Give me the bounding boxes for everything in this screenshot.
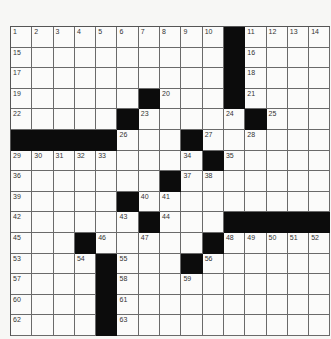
grid-cell[interactable]: 54 bbox=[75, 254, 96, 275]
grid-cell[interactable]: 8 bbox=[160, 27, 181, 48]
grid-cell[interactable]: 57 bbox=[11, 274, 32, 295]
grid-cell[interactable]: 62 bbox=[11, 315, 32, 336]
grid-cell[interactable] bbox=[54, 109, 75, 130]
grid-cell[interactable] bbox=[203, 68, 224, 89]
grid-cell[interactable]: 25 bbox=[267, 109, 288, 130]
grid-cell[interactable]: 24 bbox=[224, 109, 245, 130]
grid-cell[interactable] bbox=[32, 192, 53, 213]
grid-cell[interactable]: 56 bbox=[203, 254, 224, 275]
grid-cell[interactable] bbox=[54, 254, 75, 275]
grid-cell[interactable] bbox=[288, 192, 309, 213]
grid-cell[interactable] bbox=[54, 48, 75, 69]
grid-cell[interactable]: 30 bbox=[32, 151, 53, 172]
grid-cell[interactable]: 60 bbox=[11, 295, 32, 316]
grid-cell[interactable] bbox=[54, 315, 75, 336]
grid-cell[interactable] bbox=[117, 233, 138, 254]
grid-cell[interactable] bbox=[309, 171, 330, 192]
grid-cell[interactable] bbox=[309, 109, 330, 130]
grid-cell[interactable] bbox=[267, 192, 288, 213]
grid-cell[interactable] bbox=[32, 315, 53, 336]
grid-cell[interactable] bbox=[32, 171, 53, 192]
grid-cell[interactable]: 5 bbox=[96, 27, 117, 48]
grid-cell[interactable]: 38 bbox=[203, 171, 224, 192]
grid-cell[interactable] bbox=[309, 68, 330, 89]
grid-cell[interactable] bbox=[75, 212, 96, 233]
grid-cell[interactable]: 16 bbox=[245, 48, 266, 69]
grid-cell[interactable] bbox=[203, 48, 224, 69]
grid-cell[interactable] bbox=[267, 68, 288, 89]
grid-cell[interactable] bbox=[139, 171, 160, 192]
grid-cell[interactable] bbox=[309, 192, 330, 213]
grid-cell[interactable]: 42 bbox=[11, 212, 32, 233]
grid-cell[interactable] bbox=[117, 48, 138, 69]
grid-cell[interactable] bbox=[288, 89, 309, 110]
grid-cell[interactable]: 28 bbox=[245, 130, 266, 151]
grid-cell[interactable] bbox=[139, 254, 160, 275]
grid-cell[interactable]: 43 bbox=[117, 212, 138, 233]
grid-cell[interactable] bbox=[224, 315, 245, 336]
grid-cell[interactable] bbox=[245, 315, 266, 336]
grid-cell[interactable]: 48 bbox=[224, 233, 245, 254]
grid-cell[interactable]: 49 bbox=[245, 233, 266, 254]
grid-cell[interactable] bbox=[139, 295, 160, 316]
grid-cell[interactable]: 55 bbox=[117, 254, 138, 275]
grid-cell[interactable]: 63 bbox=[117, 315, 138, 336]
grid-cell[interactable] bbox=[75, 48, 96, 69]
grid-cell[interactable]: 47 bbox=[139, 233, 160, 254]
grid-cell[interactable]: 27 bbox=[203, 130, 224, 151]
grid-cell[interactable] bbox=[245, 192, 266, 213]
grid-cell[interactable] bbox=[288, 151, 309, 172]
grid-cell[interactable]: 29 bbox=[11, 151, 32, 172]
grid-cell[interactable] bbox=[32, 254, 53, 275]
grid-cell[interactable] bbox=[139, 68, 160, 89]
grid-cell[interactable] bbox=[288, 109, 309, 130]
grid-cell[interactable] bbox=[32, 89, 53, 110]
grid-cell[interactable] bbox=[224, 254, 245, 275]
grid-cell[interactable] bbox=[267, 295, 288, 316]
grid-cell[interactable] bbox=[245, 274, 266, 295]
grid-cell[interactable]: 51 bbox=[288, 233, 309, 254]
grid-cell[interactable]: 31 bbox=[54, 151, 75, 172]
grid-cell[interactable] bbox=[309, 48, 330, 69]
grid-cell[interactable] bbox=[309, 151, 330, 172]
grid-cell[interactable] bbox=[139, 151, 160, 172]
grid-cell[interactable] bbox=[203, 274, 224, 295]
grid-cell[interactable] bbox=[139, 315, 160, 336]
grid-cell[interactable] bbox=[117, 171, 138, 192]
grid-cell[interactable] bbox=[288, 171, 309, 192]
grid-cell[interactable] bbox=[203, 192, 224, 213]
grid-cell[interactable] bbox=[139, 48, 160, 69]
grid-cell[interactable] bbox=[288, 254, 309, 275]
grid-cell[interactable]: 15 bbox=[11, 48, 32, 69]
grid-cell[interactable] bbox=[267, 171, 288, 192]
grid-cell[interactable]: 58 bbox=[117, 274, 138, 295]
grid-cell[interactable] bbox=[309, 315, 330, 336]
grid-cell[interactable]: 52 bbox=[309, 233, 330, 254]
grid-cell[interactable] bbox=[245, 254, 266, 275]
grid-cell[interactable] bbox=[245, 295, 266, 316]
grid-cell[interactable] bbox=[288, 68, 309, 89]
grid-cell[interactable]: 21 bbox=[245, 89, 266, 110]
grid-cell[interactable] bbox=[160, 254, 181, 275]
grid-cell[interactable] bbox=[181, 233, 202, 254]
grid-cell[interactable] bbox=[160, 48, 181, 69]
grid-cell[interactable] bbox=[181, 295, 202, 316]
grid-cell[interactable] bbox=[181, 109, 202, 130]
grid-cell[interactable] bbox=[96, 192, 117, 213]
grid-cell[interactable] bbox=[96, 68, 117, 89]
grid-cell[interactable] bbox=[224, 192, 245, 213]
grid-cell[interactable] bbox=[267, 254, 288, 275]
grid-cell[interactable] bbox=[160, 109, 181, 130]
grid-cell[interactable]: 34 bbox=[181, 151, 202, 172]
grid-cell[interactable] bbox=[267, 274, 288, 295]
grid-cell[interactable] bbox=[96, 89, 117, 110]
grid-cell[interactable] bbox=[267, 130, 288, 151]
grid-cell[interactable] bbox=[117, 151, 138, 172]
grid-cell[interactable]: 4 bbox=[75, 27, 96, 48]
grid-cell[interactable]: 53 bbox=[11, 254, 32, 275]
grid-cell[interactable] bbox=[117, 68, 138, 89]
grid-cell[interactable]: 26 bbox=[117, 130, 138, 151]
grid-cell[interactable] bbox=[224, 295, 245, 316]
grid-cell[interactable] bbox=[32, 68, 53, 89]
grid-cell[interactable] bbox=[203, 212, 224, 233]
